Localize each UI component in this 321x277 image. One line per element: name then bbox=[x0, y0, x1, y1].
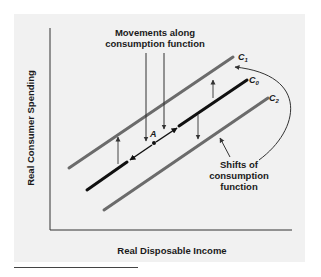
consumption-line-c2 bbox=[104, 98, 268, 210]
movement-arrow-up-right bbox=[156, 128, 177, 142]
movement-arrow-down-left bbox=[130, 145, 152, 160]
point-a-label: A bbox=[149, 129, 157, 139]
shifts-label-line1: Shifts of bbox=[220, 159, 259, 170]
shifts-pointer-c2 bbox=[220, 138, 230, 157]
point-a bbox=[152, 141, 156, 145]
x-axis-label: Real Disposable Income bbox=[117, 245, 226, 256]
y-axis-label: Real Consumer Spending bbox=[25, 70, 36, 186]
consumption-line-c1 bbox=[69, 57, 233, 168]
label-c1: C1 bbox=[238, 52, 249, 63]
movements-label-line1: Movements along bbox=[115, 27, 195, 38]
footer-rule bbox=[14, 267, 138, 268]
consumption-function-diagram: A C1 C0 C2 Movements along consumption f… bbox=[0, 0, 321, 277]
shifts-label-line2: consumption bbox=[209, 170, 269, 181]
label-c0: C0 bbox=[249, 75, 260, 86]
movements-label-line2: consumption function bbox=[105, 38, 205, 49]
shifts-label-line3: function bbox=[220, 181, 258, 192]
label-c2: C2 bbox=[269, 93, 280, 104]
axes bbox=[50, 28, 292, 230]
